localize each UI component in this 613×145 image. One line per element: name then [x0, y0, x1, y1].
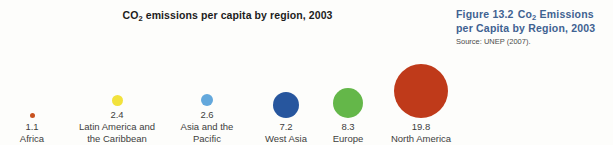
bubble-wrapper — [373, 44, 469, 118]
caption-figure-number: Figure 13.2 — [456, 8, 514, 20]
bubble-value-label: 7.2 — [279, 121, 292, 133]
bubble-category-label: Europe — [333, 133, 364, 145]
bubble-value-label: 2.6 — [200, 109, 213, 121]
caption-title-prefix: Co — [518, 8, 532, 20]
bubble-marker — [201, 94, 213, 106]
bubble-value-label: 2.4 — [110, 109, 123, 121]
bubble-category-label: Latin America and the Caribbean — [79, 121, 155, 145]
bubble-marker — [333, 88, 363, 118]
bubble-series-item: 19.8North America — [373, 24, 469, 145]
chart-title-prefix: CO — [122, 9, 138, 21]
bubble-category-label: Asia and the Pacific — [181, 121, 234, 145]
chart-title: CO2 emissions per capita by region, 2003 — [0, 9, 455, 21]
bubble-value-label: 1.1 — [25, 121, 38, 133]
chart-title-subscript: 2 — [138, 14, 142, 23]
bubble-chart: 1.1Africa2.4Latin America and the Caribb… — [0, 24, 455, 145]
bubble-series-item: 1.1Africa — [0, 24, 80, 145]
bubble-series-item: 2.4Latin America and the Caribbean — [69, 24, 165, 145]
bubble-wrapper — [69, 32, 165, 106]
chart-panel: CO2 emissions per capita by region, 2003… — [0, 0, 455, 145]
figure-caption: Figure 13.2Co2 Emissions per Capita by R… — [456, 8, 613, 47]
bubble-wrapper — [0, 44, 80, 118]
bubble-value-label: 8.3 — [341, 121, 354, 133]
caption-title-subscript: 2 — [532, 13, 536, 22]
bubble-category-label: North America — [391, 133, 451, 145]
bubble-value-label: 19.8 — [412, 121, 431, 133]
bubble-marker — [30, 113, 35, 118]
bubble-marker — [273, 92, 299, 118]
bubble-marker — [394, 64, 448, 118]
caption-source: Source: UNEP (2007). — [456, 37, 613, 47]
bubble-category-label: Africa — [20, 133, 44, 145]
bubble-marker — [112, 95, 123, 106]
caption-heading: Figure 13.2Co2 Emissions per Capita by R… — [456, 8, 613, 35]
chart-title-rest: emissions per capita by region, 2003 — [143, 9, 333, 21]
